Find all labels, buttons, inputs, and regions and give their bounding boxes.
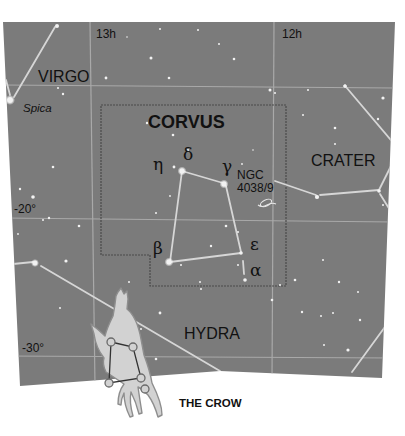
ra-label-12h: 12h bbox=[282, 27, 302, 41]
deep-sky-label-number: 4038/9 bbox=[237, 181, 274, 195]
star-label-eta: η bbox=[153, 154, 163, 174]
constellation-label-hydra: HYDRA bbox=[184, 325, 240, 342]
dec-label-minus20: -20° bbox=[14, 202, 36, 216]
star-label-beta: β bbox=[153, 238, 163, 258]
ra-label-13h: 13h bbox=[96, 27, 116, 41]
star-label-spica: Spica bbox=[23, 102, 52, 114]
inset-caption: THE CROW bbox=[179, 397, 242, 409]
star-label-gamma: γ bbox=[222, 156, 232, 176]
star-label-delta: δ bbox=[183, 144, 193, 164]
constellation-label-crater: CRATER bbox=[311, 152, 376, 169]
constellation-label-corvus: CORVUS bbox=[148, 112, 225, 132]
constellation-label-virgo: VIRGO bbox=[38, 68, 90, 85]
star-label-alpha: α bbox=[250, 260, 262, 280]
star-chart: 13h 12h -20° -30° VIRGO CORVUS CRATER HY… bbox=[0, 0, 405, 436]
star-label-epsilon: ε bbox=[250, 234, 259, 254]
dec-label-minus30: -30° bbox=[22, 341, 44, 355]
map-canvas: 13h 12h -20° -30° VIRGO CORVUS CRATER HY… bbox=[0, 0, 405, 436]
deep-sky-label-ngc: NGC bbox=[237, 168, 264, 182]
